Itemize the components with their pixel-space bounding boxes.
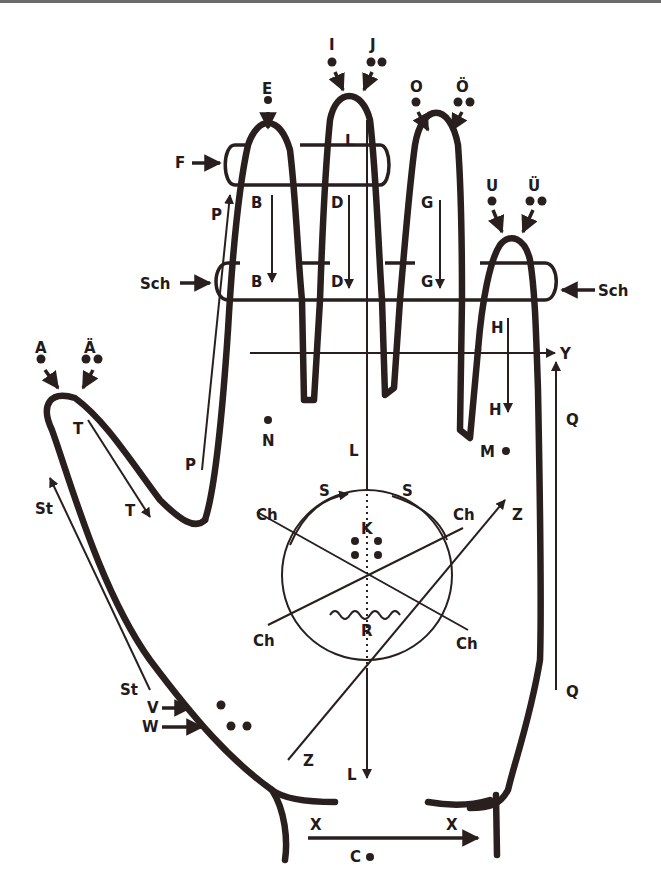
label-v: V [147,699,159,717]
label-t-bottom: T [125,502,136,520]
label-y: Y [559,345,572,363]
label-t-top: T [73,420,84,438]
label-sch-right: Sch [598,282,628,300]
label-c: C [350,848,361,866]
label-m: M [480,443,495,461]
label-n: N [262,432,275,450]
label-l-bottom: L [347,766,357,784]
label-q-top: Q [566,411,579,429]
label-z-top: Z [512,506,523,524]
label-b-top: B [251,194,262,212]
hand-outline [47,96,541,860]
label-ch-top-right: Ch [453,506,475,524]
label-g-top: G [421,194,433,212]
ring-markers [216,145,556,300]
label-d-top: D [331,194,343,212]
label-h-top: H [491,319,504,337]
label-p-top: P [211,206,222,224]
label-a: A [35,339,47,357]
label-f: F [175,154,185,172]
label-ch-bottom-left: Ch [253,632,275,650]
label-x-left: X [310,816,322,834]
label-oe: Ö [456,77,469,96]
lorm-hand-diagram: E I J O Ö U Ü F L B B D D G G P P Sch Sc… [0,0,661,891]
label-ae: Ä [84,338,96,357]
label-ch-bottom-right: Ch [456,635,478,653]
label-l-top: L [345,132,355,150]
label-u: U [486,177,498,195]
label-l-mid: L [349,442,359,460]
label-s-right: S [402,482,413,500]
label-o: O [410,78,423,96]
label-st-top: St [35,500,53,518]
label-j: J [369,36,376,54]
label-e: E [262,80,272,98]
label-sch-left: Sch [140,275,170,293]
label-z-bottom: Z [303,752,314,770]
label-p-bottom: P [185,456,196,474]
label-s-left: S [319,482,330,500]
label-d-bottom: D [331,273,343,291]
label-i: I [329,36,335,54]
label-w: W [142,718,159,736]
label-q-bottom: Q [566,683,579,701]
label-g-bottom: G [421,273,433,291]
label-ch-top-left: Ch [256,506,278,524]
label-x-right: X [446,816,458,834]
label-h-bottom: H [489,401,502,419]
label-ue: Ü [528,176,540,195]
label-b-bottom: B [251,273,262,291]
label-st-bottom: St [120,681,138,699]
label-r: R [361,622,373,640]
label-k: K [361,520,374,538]
